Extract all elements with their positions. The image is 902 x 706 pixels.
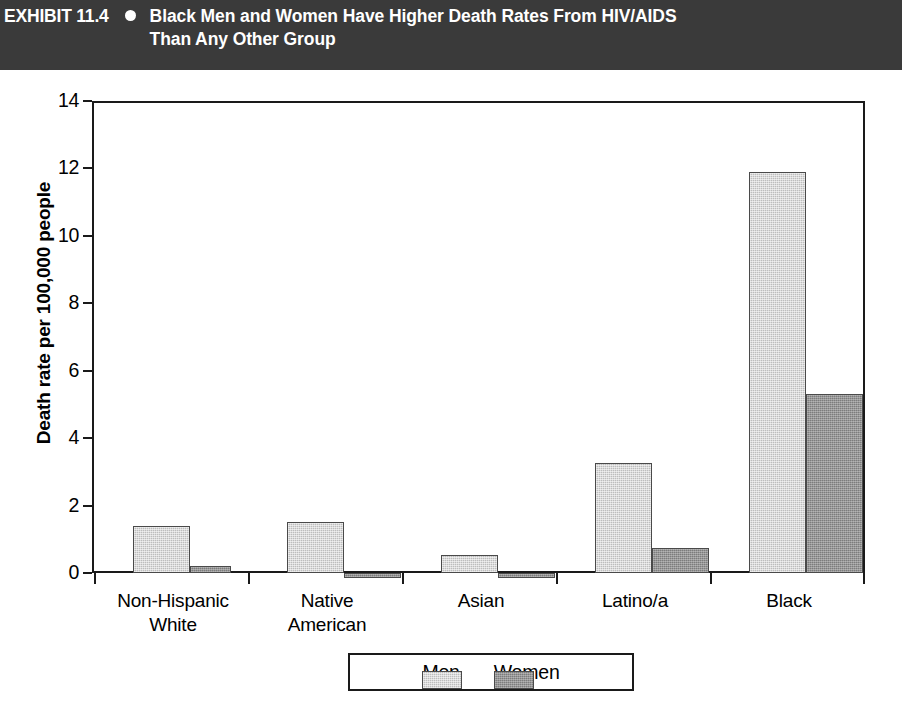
bars-layer — [92, 101, 865, 573]
x-axis-tick-1 — [248, 573, 250, 584]
x-axis-tick-0 — [94, 573, 96, 584]
bar-men-black[interactable] — [749, 172, 806, 573]
x-axis-tick-3 — [556, 573, 558, 584]
bar-women-native-american[interactable] — [344, 573, 401, 578]
exhibit-title: Black Men and Women Have Higher Death Ra… — [150, 5, 677, 51]
tick-mark — [83, 302, 92, 304]
bar-women-non-hispanic-white[interactable] — [190, 566, 231, 573]
x-axis-label-native-american: Native American — [250, 589, 404, 637]
dark-gray-swatch-icon — [494, 671, 534, 689]
x-axis-tick-5 — [863, 573, 865, 584]
tick-mark — [83, 572, 92, 574]
bar-women-black[interactable] — [806, 394, 863, 573]
filled-circle-icon — [125, 10, 136, 21]
tick-mark — [83, 167, 92, 169]
bar-group-non-hispanic-white — [133, 101, 273, 573]
exhibit-number-label: EXHIBIT 11.4 — [4, 5, 109, 28]
x-axis-label-asian: Asian — [404, 589, 558, 613]
bar-men-non-hispanic-white[interactable] — [133, 526, 190, 573]
y-axis-title: Death rate per 100,000 people — [33, 103, 55, 523]
bar-group-native-american — [287, 101, 427, 573]
tick-mark — [83, 437, 92, 439]
bar-chart: Death rate per 100,000 people 14 12 10 8… — [0, 70, 902, 706]
x-axis-label-black: Black — [712, 589, 866, 613]
bar-men-asian[interactable] — [441, 555, 498, 574]
exhibit-title-line-1: Black Men and Women Have Higher Death Ra… — [150, 5, 677, 28]
bar-men-native-american[interactable] — [287, 522, 344, 573]
tick-mark — [83, 235, 92, 237]
tick-mark — [83, 100, 92, 102]
x-axis-tick-4 — [710, 573, 712, 584]
tick-mark — [83, 505, 92, 507]
legend-entry-men: Men — [422, 661, 459, 684]
bar-group-black — [749, 101, 889, 573]
exhibit-title-line-2: Than Any Other Group — [150, 28, 677, 51]
legend-entry-women: Women — [494, 661, 560, 684]
light-gray-swatch-icon — [422, 671, 462, 689]
x-axis-tick-2 — [402, 573, 404, 584]
bar-group-asian — [441, 101, 581, 573]
exhibit-header-banner: EXHIBIT 11.4 Black Men and Women Have Hi… — [0, 0, 902, 70]
x-axis-label-latino-a: Latino/a — [558, 589, 712, 613]
bar-group-latino-a — [595, 101, 735, 573]
bar-men-latino-a[interactable] — [595, 463, 652, 573]
bar-women-latino-a[interactable] — [652, 548, 709, 573]
chart-legend: Men Women — [348, 653, 634, 691]
bar-women-asian[interactable] — [498, 573, 555, 578]
x-axis-label-non-hispanic-white: Non-Hispanic White — [96, 589, 250, 637]
tick-mark — [83, 370, 92, 372]
